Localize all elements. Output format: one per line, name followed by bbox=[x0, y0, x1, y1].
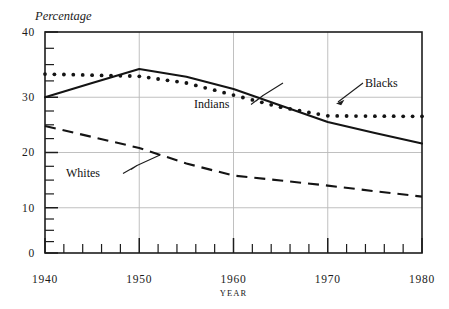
chart-figure: Percentage 40 30 20 10 0 1940 1950 1960 … bbox=[0, 0, 449, 309]
y-tick-label-0: 0 bbox=[29, 247, 35, 259]
y-tick-label-30: 30 bbox=[22, 91, 35, 103]
series-label-whites: Whites bbox=[66, 166, 100, 180]
y-tick-label-10: 10 bbox=[22, 202, 35, 214]
leader-line-blacks bbox=[338, 83, 363, 102]
x-tick-label-1960: 1960 bbox=[221, 273, 247, 285]
x-tick-label-1940: 1940 bbox=[32, 273, 58, 285]
x-axis-ticks bbox=[45, 238, 422, 253]
y-axis-ticks bbox=[45, 32, 58, 253]
x-tick-label-1980: 1980 bbox=[409, 273, 435, 285]
y-tick-label-40: 40 bbox=[22, 26, 35, 38]
grid-lines bbox=[45, 32, 422, 253]
leader-line-whites bbox=[123, 155, 160, 174]
line-chart-canvas: Percentage 40 30 20 10 0 1940 1950 1960 … bbox=[0, 0, 449, 309]
y-axis-title: Percentage bbox=[34, 9, 92, 23]
series-label-blacks: Blacks bbox=[365, 76, 398, 90]
y-tick-label-20: 20 bbox=[22, 146, 35, 158]
series-label-indians: Indians bbox=[194, 97, 230, 111]
x-tick-label-1970: 1970 bbox=[315, 273, 341, 285]
x-axis-title: YEAR bbox=[220, 288, 248, 298]
x-tick-label-1950: 1950 bbox=[126, 273, 152, 285]
